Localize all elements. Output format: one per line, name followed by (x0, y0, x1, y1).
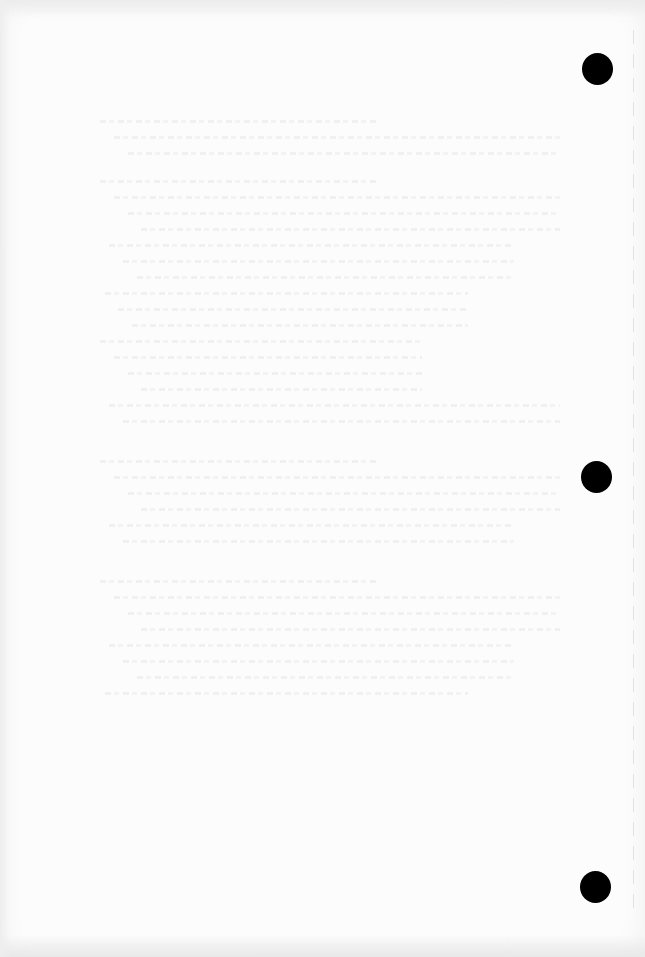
bleed-line (141, 628, 560, 631)
bleed-line (123, 420, 560, 423)
bleed-line (100, 580, 376, 583)
bleed-line (109, 524, 514, 527)
bleed-line (141, 388, 422, 391)
bleed-block (100, 180, 560, 436)
bleed-line (123, 660, 514, 663)
bleed-block (100, 460, 560, 556)
bleed-line (100, 340, 422, 343)
bleed-line (128, 492, 560, 495)
bleed-line (114, 476, 560, 479)
bleed-line (141, 508, 560, 511)
bleed-line (105, 692, 468, 695)
scanned-page (0, 0, 645, 957)
bleed-line (118, 308, 468, 311)
bleed-line (128, 372, 422, 375)
bleed-line (137, 676, 514, 679)
bleed-line (123, 260, 514, 263)
bleed-line (128, 152, 560, 155)
bleed-line (100, 120, 376, 123)
bleed-block (100, 580, 560, 708)
punch-hole (580, 871, 611, 903)
punch-hole (582, 53, 613, 85)
bleed-line (109, 404, 560, 407)
bleed-line (132, 324, 468, 327)
bleed-line (100, 460, 376, 463)
punch-hole (581, 461, 612, 493)
bleed-line (114, 136, 560, 139)
scan-shadow-bottom (0, 935, 645, 957)
scan-shadow-left (0, 0, 10, 957)
right-margin-line (633, 30, 634, 910)
bleed-line (141, 228, 560, 231)
bleed-line (105, 292, 468, 295)
bleed-line (100, 180, 376, 183)
bleed-line (128, 612, 560, 615)
bleed-line (137, 276, 514, 279)
bleed-line (114, 596, 560, 599)
bleed-line (128, 212, 560, 215)
bleed-line (109, 644, 514, 647)
bleed-line (114, 356, 422, 359)
bleed-block (100, 120, 560, 168)
scan-shadow-top (0, 0, 645, 18)
bleed-line (114, 196, 560, 199)
bleed-line (109, 244, 514, 247)
bleed-line (123, 540, 514, 543)
